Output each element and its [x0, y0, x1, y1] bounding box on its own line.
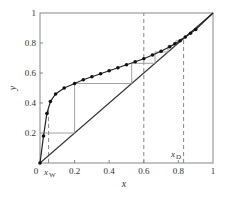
xd-annotation: x D: [170, 149, 181, 161]
y-tick-label: 0.4: [25, 98, 37, 108]
xw-annotation: x W: [43, 167, 56, 179]
svg-text:W: W: [49, 171, 56, 179]
x-tick-label: 0.6: [138, 166, 150, 176]
x-tick-label: 0: [34, 166, 39, 176]
y-tick-label: 0.6: [25, 68, 37, 78]
x-tick-label: 1: [211, 166, 216, 176]
x-tick-label: 0.2: [69, 166, 80, 176]
y-tick-label: 1: [32, 8, 37, 18]
x-tick-label: 0.8: [173, 166, 185, 176]
x-axis-label: x: [121, 178, 127, 189]
y-tick-label: 0.2: [25, 128, 36, 138]
chart-area: 1 0.8 0.6 0.4 0.2 0 0.2 0.4 0.6 0.8 1 x …: [0, 0, 226, 197]
y-axis-label: y: [7, 85, 18, 91]
operating-staircase: [44, 39, 184, 134]
svg-text:x: x: [43, 167, 48, 177]
svg-text:x: x: [170, 149, 175, 159]
x-tick-label: 0.4: [104, 166, 116, 176]
svg-text:D: D: [176, 153, 181, 161]
y-tick-label: 0.8: [25, 38, 37, 48]
